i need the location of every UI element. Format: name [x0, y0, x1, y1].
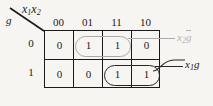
row-variable-label: g: [6, 14, 12, 26]
cell-r1-c10: 1: [132, 60, 161, 89]
row-header-0: 0: [24, 37, 38, 49]
column-header-00: 00: [44, 16, 73, 28]
row-header-1: 1: [24, 66, 38, 78]
kmap-grid: 0 1 1 0 0 0 1 1: [44, 30, 160, 88]
column-header-11: 11: [102, 16, 131, 28]
cell-r0-c00: 0: [45, 31, 74, 60]
cell-r0-c11: 1: [103, 31, 132, 60]
cell-r1-c00: 0: [45, 60, 74, 89]
column-variables-label: x1x2: [22, 2, 41, 17]
column-var-x2-sub: 2: [37, 8, 41, 17]
karnaugh-map-figure: x1x2 g 00 01 11 10 0 1 0 1 1 0 0 0 1 1 x…: [0, 0, 213, 106]
group-label-g: g: [194, 58, 200, 70]
group-label-x2-gbar: x2g: [177, 31, 191, 45]
cell-r1-c11: 1: [103, 60, 132, 89]
group-label-x1-g: x1g: [185, 58, 199, 72]
column-header-10: 10: [131, 16, 160, 28]
cell-r1-c01: 0: [74, 60, 103, 89]
cell-r0-c10: 0: [132, 31, 161, 60]
group-label-gbar: g: [186, 31, 192, 43]
cell-r0-c01: 1: [74, 31, 103, 60]
column-header-01: 01: [73, 16, 102, 28]
